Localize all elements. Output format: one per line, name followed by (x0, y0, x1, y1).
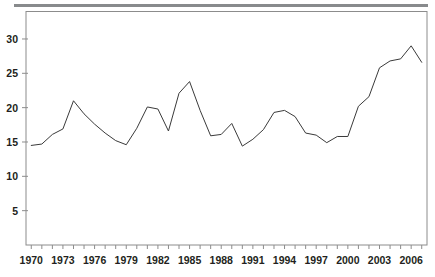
x-tick-label: 1973 (51, 254, 74, 266)
x-tick-label: 2006 (399, 254, 422, 266)
data-line-series-1 (31, 46, 421, 146)
x-tick-label: 1982 (146, 254, 169, 266)
x-tick-label: 1970 (20, 254, 43, 266)
y-axis-ticks (22, 39, 28, 211)
y-tick-label: 5 (0, 205, 18, 217)
chart-svg (0, 0, 435, 277)
figure-container: 51015202530 1970197319761979198219851988… (0, 0, 435, 277)
x-tick-label: 1979 (115, 254, 138, 266)
x-tick-label: 1988 (210, 254, 233, 266)
x-axis-ticks (31, 245, 421, 249)
x-tick-label: 2000 (336, 254, 359, 266)
x-tick-label: 1994 (273, 254, 296, 266)
x-tick-label: 1997 (305, 254, 328, 266)
y-tick-label: 30 (0, 33, 18, 45)
y-tick-label: 15 (0, 136, 18, 148)
y-tick-label: 20 (0, 102, 18, 114)
y-tick-label: 10 (0, 170, 18, 182)
x-tick-label: 1991 (241, 254, 264, 266)
y-tick-label: 25 (0, 67, 18, 79)
x-tick-label: 1985 (178, 254, 201, 266)
x-tick-label: 1976 (83, 254, 106, 266)
line-chart: 51015202530 1970197319761979198219851988… (0, 0, 435, 277)
x-tick-label: 2003 (368, 254, 391, 266)
